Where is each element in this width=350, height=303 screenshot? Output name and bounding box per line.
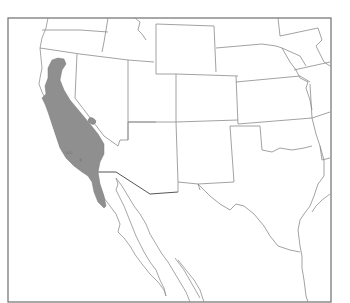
channel-island-1 bbox=[66, 152, 72, 154]
range-map bbox=[0, 0, 350, 303]
channel-island-2 bbox=[80, 159, 82, 161]
